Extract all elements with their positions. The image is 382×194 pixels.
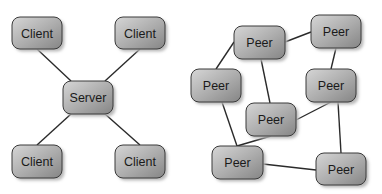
- node-label: Peer: [203, 79, 229, 93]
- node-peer-center: Peer: [246, 103, 299, 139]
- edge-server-client-bl: [37, 114, 71, 145]
- node-label: Client: [124, 27, 156, 41]
- nodes-layer: ClientClientServerClientClientPeerPeerPe…: [12, 15, 369, 188]
- node-peer-topright: Peer: [311, 15, 364, 51]
- node-server: Server: [63, 81, 116, 117]
- node-client-tr: Client: [115, 17, 168, 52]
- node-label: Peer: [318, 79, 344, 93]
- edge-peer-topright-peer-midright: [331, 48, 336, 69]
- node-peer-bottomleft: Peer: [212, 146, 266, 182]
- node-label: Peer: [323, 25, 349, 39]
- node-peer-top: Peer: [234, 26, 288, 62]
- node-label: Peer: [246, 36, 272, 50]
- edge-peer-top-peer-center: [261, 59, 270, 103]
- node-label: Client: [21, 27, 53, 41]
- node-label: Client: [21, 155, 53, 169]
- edge-peer-midright-peer-bottomright: [338, 102, 341, 153]
- edge-peer-top-peer-midleft: [216, 42, 234, 69]
- client-server-nodes: ClientClientServerClientClient: [12, 17, 168, 181]
- node-label: Server: [70, 91, 107, 105]
- edge-client-tr-server: [105, 49, 140, 81]
- edge-peer-midleft-peer-bottomleft: [222, 102, 237, 146]
- network-diagram: ClientClientServerClientClientPeerPeerPe…: [0, 0, 382, 194]
- node-label: Peer: [224, 156, 250, 170]
- node-client-bl: Client: [12, 145, 65, 181]
- node-label: Peer: [258, 113, 284, 127]
- edge-peer-midright-peer-center: [296, 102, 331, 120]
- node-label: Client: [124, 155, 156, 169]
- peer-to-peer-nodes: PeerPeerPeerPeerPeerPeerPeer: [191, 15, 369, 188]
- node-label: Peer: [328, 163, 354, 177]
- edge-peer-bottomleft-peer-bottomright: [263, 164, 316, 170]
- edge-peer-top-peer-topright: [285, 32, 311, 42]
- edge-server-client-br: [105, 114, 140, 145]
- node-client-br: Client: [115, 145, 168, 181]
- node-peer-midleft: Peer: [191, 69, 244, 105]
- edge-client-tl-server: [37, 49, 71, 81]
- node-client-tl: Client: [12, 17, 65, 52]
- node-peer-midright: Peer: [306, 69, 359, 105]
- node-peer-bottomright: Peer: [316, 153, 369, 188]
